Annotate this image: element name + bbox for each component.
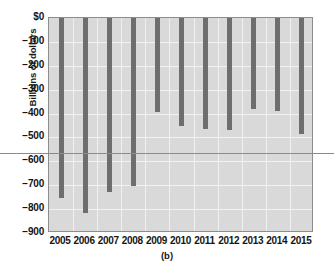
gridline-vertical [290,18,291,231]
bar-2008 [131,18,136,186]
y-tick-label: −300 [0,83,44,94]
y-tick-label: −700 [0,178,44,189]
chart-figure: Billions of dollars $0−100−200−300−400−5… [0,0,334,266]
y-axis-tick-labels: $0−100−200−300−400−500−600−700−800−900 [0,0,44,266]
gridline-vertical [194,18,195,231]
bar-2006 [83,18,88,213]
y-tick-label: −200 [0,59,44,70]
bar-2013 [251,18,256,109]
gridline-vertical [121,18,122,231]
gridline-vertical [218,18,219,231]
y-tick-label: −400 [0,107,44,118]
bar-2007 [107,18,112,192]
plot-area [48,17,313,232]
plot-inner [49,18,312,231]
bar-2011 [203,18,208,129]
gridline-vertical [73,18,74,231]
gridline-vertical [97,18,98,231]
bar-2015 [299,18,304,134]
gridline-horizontal [49,185,312,186]
y-tick-label: −500 [0,130,44,141]
y-tick-label: −900 [0,226,44,237]
gridline-horizontal [49,161,312,162]
bar-2012 [227,18,232,130]
bar-2005 [59,18,64,198]
bar-2009 [155,18,160,112]
y-tick-label: −600 [0,154,44,165]
gridline-horizontal [49,137,312,138]
x-tick-label-2015: 2015 [286,235,316,246]
average-reference-line [0,153,334,154]
gridline-vertical [266,18,267,231]
gridline-vertical [169,18,170,231]
bar-2014 [275,18,280,111]
bar-2010 [179,18,184,126]
y-tick-label: −800 [0,202,44,213]
y-tick-label: $0 [0,11,44,22]
gridline-vertical [145,18,146,231]
figure-caption: (b) [0,250,334,261]
gridline-horizontal [49,209,312,210]
gridline-vertical [242,18,243,231]
y-tick-label: −100 [0,35,44,46]
